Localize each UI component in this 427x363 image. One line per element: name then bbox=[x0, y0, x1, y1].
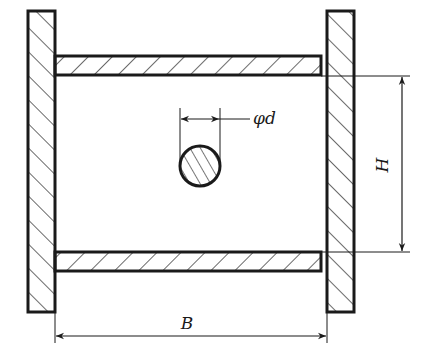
width-dimension: B bbox=[55, 312, 327, 343]
top-flange bbox=[55, 56, 321, 75]
left-plate bbox=[28, 11, 55, 312]
width-label: B bbox=[180, 313, 194, 333]
cross-section-diagram: φd H B bbox=[0, 0, 427, 363]
diameter-label: φd bbox=[253, 108, 276, 128]
bottom-flange bbox=[55, 252, 321, 271]
right-plate bbox=[327, 11, 354, 312]
height-label: H bbox=[372, 156, 392, 173]
round-rod bbox=[180, 146, 220, 186]
